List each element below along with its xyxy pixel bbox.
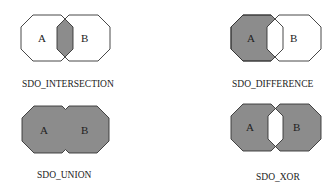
caption-intersection: SDO_INTERSECTION (22, 79, 114, 89)
caption-difference: SDO_DIFFERENCE (232, 79, 313, 89)
panel-intersection: A B SDO_INTERSECTION (21, 15, 114, 89)
shape-b-label: B (293, 121, 300, 133)
panel-xor: A B SDO_XOR (231, 104, 321, 182)
spatial-operations-diagram: A B SDO_INTERSECTION A B SDO_DIFFERENCE … (0, 0, 335, 191)
shape-a-label: A (38, 32, 46, 44)
caption-xor: SDO_XOR (256, 172, 300, 182)
shape-a-label: A (246, 121, 254, 133)
shape-a-label: A (40, 124, 48, 136)
shape-b-label: B (290, 32, 297, 44)
panel-union: A B SDO_UNION (22, 106, 109, 180)
panel-difference: A B SDO_DIFFERENCE (231, 15, 321, 89)
shape-a-label: A (247, 32, 255, 44)
shape-b-label: B (81, 32, 88, 44)
shape-b-label: B (81, 124, 88, 136)
caption-union: SDO_UNION (37, 170, 92, 180)
